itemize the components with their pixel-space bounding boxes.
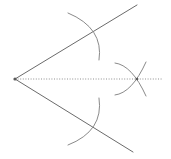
angle-vertex-point (13, 77, 16, 80)
bisector-intersection-point (136, 78, 139, 81)
construction-canvas (0, 0, 171, 159)
geometry-figure: Angle bisection compass-and-straightedge… (0, 0, 171, 159)
